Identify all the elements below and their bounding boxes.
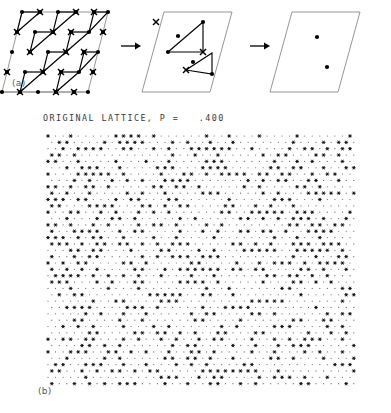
lattice-site-empty-dot — [161, 135, 162, 136]
lattice-site-star-core — [55, 275, 57, 277]
lattice-site-empty-dot — [100, 262, 101, 263]
lattice-site-star-core — [262, 230, 264, 232]
lattice-site-star-core — [217, 370, 219, 372]
lattice-site-star-core — [47, 237, 49, 239]
lattice-site-empty-dot — [198, 224, 199, 225]
lattice-site-empty-dot — [191, 250, 192, 251]
lattice-site-empty-dot — [119, 332, 120, 333]
lattice-site-star-core — [92, 224, 94, 226]
lattice-site-empty-dot — [270, 269, 271, 270]
lattice-site-empty-dot — [202, 383, 203, 384]
lattice-site-star-core — [73, 154, 75, 156]
lattice-site-star-core — [209, 256, 211, 258]
lattice-site-star-core — [311, 249, 313, 251]
lattice-site-empty-dot — [312, 135, 313, 136]
lattice-site-star-core — [353, 345, 355, 347]
lattice-site-star-core — [236, 326, 238, 328]
lattice-site-star-core — [85, 148, 87, 150]
lattice-site-empty-dot — [206, 237, 207, 238]
lattice-site-star-core — [251, 148, 253, 150]
lattice-site-empty-dot — [81, 358, 82, 359]
lattice-site-empty-dot — [81, 332, 82, 333]
lattice-site-empty-dot — [161, 313, 162, 314]
lattice-site-star-core — [330, 230, 332, 232]
lattice-site-empty-dot — [198, 275, 199, 276]
lattice-site-star-core — [157, 243, 159, 245]
lattice-site-star-core — [274, 376, 276, 378]
lattice-site-empty-dot — [236, 313, 237, 314]
lattice-site-empty-dot — [240, 180, 241, 181]
lattice-site-star-core — [334, 224, 336, 226]
lattice-site-empty-dot — [266, 237, 267, 238]
lattice-site-empty-dot — [47, 288, 48, 289]
lattice-site-empty-dot — [255, 320, 256, 321]
lattice-site-empty-dot — [55, 135, 56, 136]
lattice-site-empty-dot — [161, 351, 162, 352]
lattice-site-empty-dot — [187, 320, 188, 321]
lattice-site-star-core — [292, 243, 294, 245]
lattice-site-star-core — [217, 167, 219, 169]
lattice-site-star-core — [73, 307, 75, 309]
lattice-site-empty-dot — [100, 224, 101, 225]
lattice-site-star-core — [304, 211, 306, 213]
lattice-site-empty-dot — [334, 313, 335, 314]
lattice-site-empty-dot — [51, 180, 52, 181]
lattice-site-empty-dot — [195, 142, 196, 143]
lattice-site-empty-dot — [266, 288, 267, 289]
lattice-site-star-core — [209, 294, 211, 296]
lattice-site-empty-dot — [191, 161, 192, 162]
lattice-site-star-core — [315, 256, 317, 258]
lattice-site-empty-dot — [346, 370, 347, 371]
lattice-site-empty-dot — [183, 313, 184, 314]
lattice-site-empty-dot — [104, 320, 105, 321]
lattice-site-empty-dot — [346, 320, 347, 321]
lattice-site-empty-dot — [206, 326, 207, 327]
lattice-site-empty-dot — [123, 186, 124, 187]
lattice-site-star-core — [58, 154, 60, 156]
lattice-site-empty-dot — [244, 135, 245, 136]
lattice-site-empty-dot — [334, 339, 335, 340]
lattice-site-empty-dot — [78, 135, 79, 136]
lattice-site-star-core — [323, 268, 325, 270]
lattice-site-star-core — [175, 338, 177, 340]
lattice-site-empty-dot — [153, 173, 154, 174]
lattice-site-empty-dot — [115, 250, 116, 251]
lattice-site-star-core — [289, 338, 291, 340]
lattice-site-empty-dot — [338, 281, 339, 282]
lattice-site-empty-dot — [130, 364, 131, 365]
lattice-site-star-core — [198, 148, 200, 150]
lattice-site-empty-dot — [191, 288, 192, 289]
lattice-site-empty-dot — [206, 262, 207, 263]
lattice-site-star-core — [296, 237, 298, 239]
lattice-site-star-core — [342, 287, 344, 289]
lattice-site-star-core — [138, 211, 140, 213]
lattice-site-star-core — [126, 180, 128, 182]
lattice-site-empty-dot — [206, 339, 207, 340]
lattice-site-empty-dot — [93, 262, 94, 263]
lattice-site-empty-dot — [244, 224, 245, 225]
lattice-site-star-core — [73, 294, 75, 296]
lattice-site-empty-dot — [236, 339, 237, 340]
lattice-site-empty-dot — [349, 173, 350, 174]
lattice-site-empty-dot — [315, 294, 316, 295]
lattice-site-empty-dot — [78, 224, 79, 225]
lattice-site-empty-dot — [206, 275, 207, 276]
lattice-site-empty-dot — [51, 307, 52, 308]
lattice-site-empty-dot — [93, 161, 94, 162]
lattice-site-empty-dot — [221, 186, 222, 187]
lattice-site-star-core — [81, 243, 83, 245]
lattice-site-empty-dot — [240, 345, 241, 346]
lattice-site-empty-dot — [293, 370, 294, 371]
lattice-site-star-core — [70, 287, 72, 289]
lattice-site-star-core — [66, 167, 68, 169]
lattice-site-empty-dot — [47, 250, 48, 251]
lattice-site-empty-dot — [100, 135, 101, 136]
lattice-site-empty-dot — [210, 332, 211, 333]
lattice-site-empty-dot — [85, 288, 86, 289]
lattice-site-star-core — [89, 180, 91, 182]
lattice-site-star-core — [145, 262, 147, 264]
lattice-site-empty-dot — [164, 307, 165, 308]
lattice-site-empty-dot — [168, 339, 169, 340]
lattice-site-empty-dot — [195, 294, 196, 295]
lattice-site-empty-dot — [183, 148, 184, 149]
